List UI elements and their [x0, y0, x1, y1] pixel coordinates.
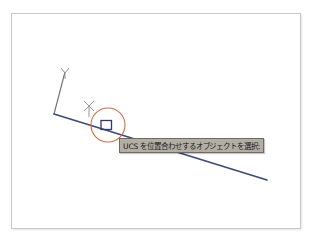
ucs-y-axis-arrow — [61, 68, 69, 79]
command-prompt-tooltip: UCS を位置合わせするオブジェクトを選択: — [119, 138, 264, 153]
cad-drawing-canvas[interactable]: UCS を位置合わせするオブジェクトを選択: — [12, 14, 300, 228]
pickbox-cursor[interactable] — [101, 121, 112, 130]
ucs-icon — [54, 68, 69, 114]
crosshair-marker — [84, 101, 94, 117]
aperture-circle — [91, 108, 125, 142]
ucs-y-axis-line — [54, 72, 65, 114]
cad-vector-layer — [12, 14, 302, 230]
application-window: UCS を位置合わせするオブジェクトを選択: — [0, 0, 313, 242]
drawing-paper-frame: UCS を位置合わせするオブジェクトを選択: — [11, 13, 301, 229]
